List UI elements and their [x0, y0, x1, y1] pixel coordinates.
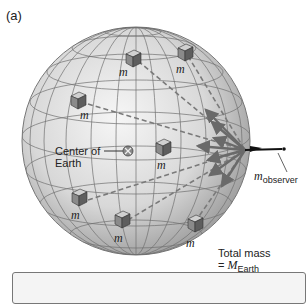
total-mass-label: Total mass = MEarth [218, 247, 271, 275]
observer-figure [245, 146, 287, 172]
mass-label: m [176, 62, 185, 77]
caption-box [12, 272, 306, 304]
mass-label: m [80, 108, 89, 123]
panel-label: (a) [6, 8, 22, 23]
mass-cube [72, 189, 87, 206]
mass-label: m [186, 236, 195, 251]
mass-label: m [114, 231, 123, 246]
mass-cube [71, 92, 86, 109]
mass-label: m [119, 65, 128, 80]
mass-cube [115, 211, 130, 228]
mass-cube [188, 215, 203, 232]
mass-label: m [157, 158, 166, 173]
mass-cube [126, 50, 141, 67]
mass-cube [178, 44, 193, 61]
mass-cube [156, 139, 171, 156]
mass-label: m [71, 208, 80, 223]
center-of-earth-label: Center of Earth [55, 145, 100, 169]
observer-label: mobserver [254, 170, 298, 186]
